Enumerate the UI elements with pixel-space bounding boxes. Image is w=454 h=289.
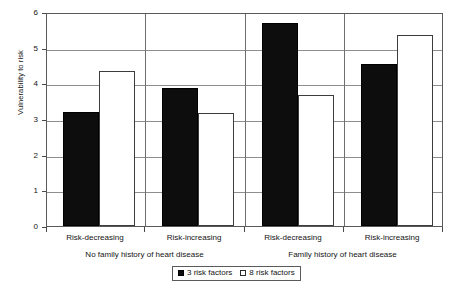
bar-series-8-risk-factors: [198, 113, 234, 227]
x-category-label: Risk-increasing: [144, 233, 244, 242]
plot-area: [46, 13, 443, 227]
x-tick-mark: [244, 227, 245, 232]
y-tick-label: 4: [12, 80, 38, 88]
legend-label: 8 risk factors: [249, 268, 294, 278]
legend-swatch-filled-square-icon: [178, 270, 184, 276]
bar-series-8-risk-factors: [99, 71, 135, 226]
category-divider: [344, 14, 345, 226]
x-category-label: Risk-increasing: [342, 233, 442, 242]
y-tick-label: 3: [12, 116, 38, 124]
legend-item-3-risk-factors: 3 risk factors: [178, 268, 232, 278]
legend-label: 3 risk factors: [187, 268, 232, 278]
y-tick-label: 2: [12, 152, 38, 160]
y-tick-label: 0: [12, 223, 38, 231]
bar-series-3-risk-factors: [361, 64, 397, 226]
bar-series-3-risk-factors: [262, 23, 298, 226]
y-tick-label: 1: [12, 187, 38, 195]
bar-series-8-risk-factors: [397, 35, 433, 226]
y-tick-label: 6: [12, 9, 38, 17]
x-tick-mark: [46, 227, 47, 232]
x-tick-mark: [144, 227, 145, 232]
bar-series-3-risk-factors: [63, 112, 99, 226]
category-divider: [245, 14, 246, 226]
legend-item-8-risk-factors: 8 risk factors: [240, 268, 294, 278]
bar-chart: Vulnerability to risk 6 5 4 3 2 1 0: [0, 0, 454, 289]
chart-legend: 3 risk factors 8 risk factors: [172, 266, 301, 281]
bar-series-8-risk-factors: [298, 95, 334, 226]
x-group-label: Family history of heart disease: [243, 250, 442, 259]
x-tick-mark: [442, 227, 443, 232]
category-divider: [145, 14, 146, 226]
bar-series-3-risk-factors: [162, 88, 198, 226]
x-tick-mark: [343, 227, 344, 232]
x-category-label: Risk-decreasing: [243, 233, 343, 242]
x-group-label: No family history of heart disease: [45, 250, 244, 259]
x-category-label: Risk-decreasing: [45, 233, 145, 242]
legend-swatch-outline-square-icon: [240, 270, 246, 276]
y-tick-label: 5: [12, 45, 38, 53]
